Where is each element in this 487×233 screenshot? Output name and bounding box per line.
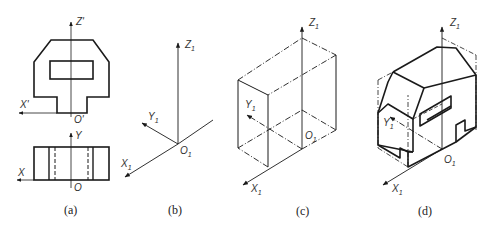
label-y: Y <box>75 131 82 141</box>
x1-axis-extension <box>178 120 213 144</box>
y1-axis <box>247 115 302 149</box>
label-y1: Y1 <box>148 112 159 124</box>
label-z1: Z1 <box>185 40 195 52</box>
figure-a-front-view <box>19 22 109 117</box>
label-o1: O1 <box>180 146 192 158</box>
figure-d-solid <box>378 27 476 185</box>
caption-a: (a) <box>64 204 77 216</box>
label-o: O <box>74 183 82 193</box>
caption-c: (c) <box>296 205 309 217</box>
label-x: X <box>18 168 25 178</box>
label-y1: Y1 <box>245 100 256 112</box>
label-x1: X1 <box>392 184 403 196</box>
front-view-window <box>50 61 93 79</box>
label-y1: Y1 <box>383 118 394 130</box>
label-o1: O1 <box>444 155 456 167</box>
figure-a-top-view <box>17 133 109 188</box>
top-view-outline <box>34 147 109 180</box>
x1-axis <box>243 149 302 185</box>
label-z1: Z1 <box>309 18 319 30</box>
label-o-prime: O' <box>74 115 84 125</box>
label-z1: Z1 <box>450 18 460 30</box>
label-x-prime: X' <box>20 100 29 110</box>
y1-axis <box>142 123 178 144</box>
caption-d: (d) <box>418 205 432 217</box>
x1-axis <box>125 144 178 177</box>
label-o1: O1 <box>305 131 317 143</box>
y1-axis <box>390 117 442 149</box>
caption-b: (b) <box>168 204 182 216</box>
front-view-outline <box>34 40 109 113</box>
label-z-prime: Z' <box>76 17 84 27</box>
label-x1: X1 <box>121 159 132 171</box>
label-x1: X1 <box>251 184 262 196</box>
figure-b-axes <box>125 43 213 177</box>
